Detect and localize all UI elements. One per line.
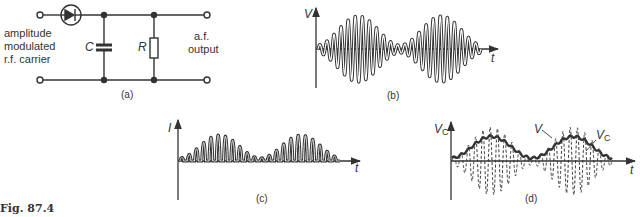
output-label-line1: a.f. xyxy=(194,30,209,42)
input-label-line3: r.f. carrier xyxy=(4,53,51,65)
capacitor-voltage-curve xyxy=(452,135,612,159)
panel-b-label: (b) xyxy=(387,90,399,101)
diode-icon xyxy=(61,5,81,25)
curve-v-label: V xyxy=(534,122,543,136)
output-terminal-bottom xyxy=(204,77,210,83)
panel-d-label: (d) xyxy=(525,193,537,204)
output-terminal-top xyxy=(204,12,210,18)
figure-canvas: amplitude modulated r.f. carrier C R a.f… xyxy=(0,0,640,217)
panel-a-label: (a) xyxy=(121,89,133,100)
panel-b-x-axis-label: t xyxy=(491,51,495,65)
panel-c-graph xyxy=(178,120,360,200)
curve-vc-label: VC xyxy=(596,128,611,143)
resistor-icon xyxy=(150,15,158,80)
panel-c-label: (c) xyxy=(256,193,268,204)
capacitor-icon xyxy=(96,15,112,80)
input-terminal-top xyxy=(37,12,43,18)
resistor-label: R xyxy=(138,40,147,54)
panel-d-y-axis-label: VC xyxy=(434,122,449,137)
figure-caption: Fig. 87.4 xyxy=(0,202,54,215)
panel-b-y-axis-label: V xyxy=(304,7,313,21)
capacitor-label: C xyxy=(85,40,94,54)
circuit-diagram xyxy=(37,5,210,83)
panel-c-x-axis-label: t xyxy=(355,161,359,175)
input-label-line1: amplitude xyxy=(4,27,52,39)
rectified-current-pulses xyxy=(180,135,340,161)
input-label-line2: modulated xyxy=(4,40,55,52)
input-terminal-bottom xyxy=(37,77,43,83)
panel-b-graph xyxy=(316,8,498,88)
panel-c-y-axis-label: I xyxy=(168,121,172,135)
panel-d-x-axis-label: t xyxy=(630,163,634,177)
output-label-line2: output xyxy=(188,43,219,55)
